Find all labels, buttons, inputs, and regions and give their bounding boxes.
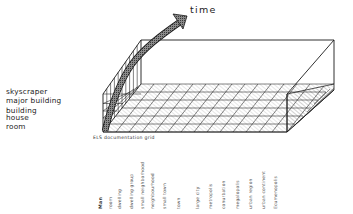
ekistic-grid-diagram: time skyscraper major building building … xyxy=(0,0,353,214)
x-label-dwelling: dwelling xyxy=(117,189,122,209)
x-label-neighbourhood: neighbourhood xyxy=(150,173,155,209)
x-label-large-city: large city xyxy=(195,187,200,209)
x-label-urban-region: urban region xyxy=(248,178,253,209)
x-label-small-neighborhood: small neighborhood xyxy=(140,162,145,209)
x-label-conurbation: conurbation xyxy=(221,180,226,209)
x-label-town: town xyxy=(176,197,181,209)
x-label-dwelling-group: dwelling group xyxy=(129,174,134,209)
x-label-man: Man xyxy=(98,197,103,209)
x-label-megalopolis: megalopolis xyxy=(235,180,240,209)
x-label-room: room xyxy=(108,197,113,209)
x-label-metropolis: metropolis xyxy=(208,184,213,209)
x-label-urban-continent: urban continent xyxy=(261,171,266,209)
x-label-ecumenopolis: Ecumenopolis xyxy=(273,176,278,209)
x-label-small-town: small town xyxy=(162,183,167,209)
x-axis-labels: Man room dwelling dwelling group small n… xyxy=(0,0,353,214)
